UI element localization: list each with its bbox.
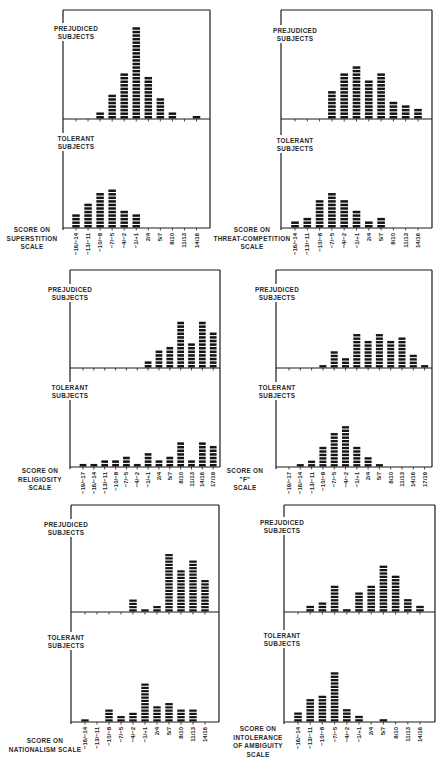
bar-segment (133, 56, 140, 59)
bar-segment (390, 116, 398, 119)
prejudiced-bar (410, 355, 417, 368)
bar-segment (365, 348, 372, 350)
prejudiced-bar (108, 95, 115, 119)
tolerant-bar (153, 706, 160, 721)
x-tick-label: −7/−5 (332, 726, 338, 742)
tolerant-bar (355, 716, 363, 722)
bar-segment (157, 98, 164, 101)
bar-segment (201, 587, 208, 589)
bar-segment (189, 593, 196, 595)
bar-segment (331, 599, 339, 601)
bar-segment (108, 214, 115, 217)
x-tick-label: −16/−14 (295, 726, 301, 749)
tolerant-bar (291, 221, 299, 227)
tolerant-bar (90, 464, 97, 467)
bar-segment (141, 716, 148, 718)
bar-segment (404, 599, 412, 601)
bar-segment (328, 200, 336, 203)
bar-segment (199, 333, 206, 336)
bar-segment (201, 606, 208, 608)
bar-segment (157, 109, 164, 112)
bar-segment (177, 570, 184, 572)
bar-segment (199, 358, 206, 361)
bar-segment (376, 338, 383, 340)
bar-segment (120, 81, 127, 84)
bar-segment (165, 716, 172, 718)
bar-segment (134, 464, 141, 467)
tolerant-bar (365, 457, 372, 466)
prejudiced-subjects-label: PREJUDICED (260, 519, 304, 526)
x-tick-label: −16/−14 (91, 471, 97, 494)
prejudiced-bar (340, 73, 348, 118)
bar-segment (319, 696, 327, 698)
bar-segment (319, 719, 327, 721)
bar-segment (177, 593, 184, 595)
bar-segment (380, 566, 388, 568)
bar-segment (316, 214, 324, 217)
bar-segment (165, 719, 172, 721)
bar-segment (188, 358, 195, 361)
bar-segment (340, 105, 348, 108)
bar-segment (328, 91, 336, 94)
bar-segment (342, 430, 349, 432)
x-tick-label: 14/16 (194, 232, 200, 248)
bar-segment (353, 221, 361, 224)
bar-segment (177, 587, 184, 589)
bar-segment (303, 225, 311, 228)
prejudiced-subjects-label: SUBJECTS (277, 35, 314, 42)
bar-segment (398, 341, 405, 343)
x-tick-label: −13/−11 (307, 726, 313, 748)
bar-segment (376, 334, 383, 336)
prejudiced-bar (367, 586, 375, 612)
tolerant-subjects-label: TOLERANT (57, 135, 94, 142)
bar-segment (355, 592, 363, 594)
bar-segment (177, 347, 184, 350)
bar-segment (96, 214, 103, 217)
bar-segment (120, 95, 127, 98)
bar-segment (199, 354, 206, 357)
tolerant-bar (84, 204, 91, 228)
bar-segment (120, 84, 127, 87)
tolerant-bar (319, 447, 326, 467)
bar-segment (133, 112, 140, 115)
bar-segment (377, 88, 385, 91)
x-tick-label: −1/+1 (356, 726, 362, 742)
bar-segment (165, 593, 172, 595)
x-tick-label: 11/13 (181, 232, 187, 247)
bar-segment (189, 716, 196, 718)
bar-segment (319, 365, 326, 367)
bar-segment (392, 599, 400, 601)
bar-segment (177, 464, 184, 467)
prejudiced-bar (133, 27, 140, 118)
prejudiced-bar (365, 81, 373, 119)
x-tick-label: −4/−2 (343, 471, 349, 487)
bar-segment (165, 706, 172, 708)
x-axis-title: RELIGIOSITY (18, 476, 62, 483)
bar-segment (210, 333, 217, 336)
bar-segment (133, 45, 140, 48)
bar-segment (133, 63, 140, 66)
bar-segment (355, 603, 363, 605)
bar-segment (402, 112, 410, 115)
bar-segment (331, 589, 339, 591)
tolerant-bar (117, 716, 124, 721)
bar-segment (189, 719, 196, 721)
prejudiced-subjects-label: PREJUDICED (54, 25, 98, 32)
histogram-panel-superstition: PREJUDICEDSUBJECTSTOLERANTSUBJECTS−16/−1… (7, 10, 210, 255)
bar-segment (365, 351, 372, 353)
prejudiced-subjects-label: SUBJECTS (259, 294, 296, 301)
bar-segment (331, 358, 338, 360)
bar-segment (365, 344, 372, 346)
tolerant-bar (331, 672, 339, 721)
bar-segment (365, 358, 372, 360)
bar-segment (331, 606, 339, 608)
bar-segment (353, 358, 360, 360)
bar-segment (410, 358, 417, 360)
bar-segment (319, 447, 326, 449)
tolerant-bar (166, 457, 173, 467)
bar-segment (343, 719, 351, 721)
x-tick-label: 11/13 (189, 471, 195, 486)
prejudiced-bar (165, 554, 172, 611)
bar-segment (199, 336, 206, 339)
bar-segment (177, 590, 184, 592)
